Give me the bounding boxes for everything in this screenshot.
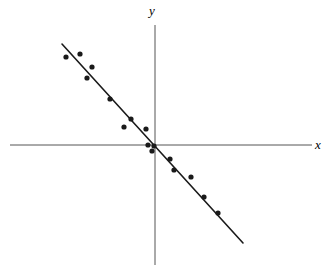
axes-group: [10, 25, 312, 265]
data-point: [149, 148, 154, 153]
data-point: [89, 64, 94, 69]
data-point: [201, 194, 206, 199]
data-point: [121, 124, 126, 129]
data-point: [167, 156, 172, 161]
data-point: [77, 51, 82, 56]
data-point: [215, 210, 220, 215]
data-points-group: [63, 51, 220, 215]
data-point: [171, 167, 176, 172]
data-point: [143, 126, 148, 131]
data-point: [188, 174, 193, 179]
data-point: [128, 116, 133, 121]
data-point: [151, 143, 156, 148]
data-point: [107, 96, 112, 101]
data-point: [63, 54, 68, 59]
data-point: [145, 142, 150, 147]
y-axis-label: y: [149, 4, 155, 17]
data-point: [84, 75, 89, 80]
x-axis-label: x: [315, 138, 321, 151]
scatter-plot-figure: x y: [0, 0, 331, 275]
plot-canvas: [0, 0, 331, 275]
